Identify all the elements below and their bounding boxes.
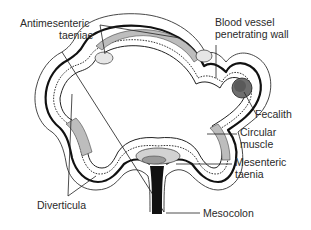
label-diverticula: Diverticula: [37, 199, 86, 211]
circular-muscle-right: [210, 124, 230, 160]
label-mesocolon: Mesocolon: [203, 207, 254, 219]
label-blood-vessel-line1: Blood vessel: [215, 16, 275, 28]
label-circular-muscle-line2: muscle: [240, 138, 273, 150]
mesenteric-vessel: [142, 156, 166, 164]
antimesenteric-taenia-right: [196, 50, 212, 62]
colon-diverticula-diagram: Antimesenteric taeniae Blood vessel pene…: [0, 0, 311, 230]
label-antimesenteric-line2: taeniae: [59, 29, 94, 41]
label-fecalith: Fecalith: [255, 108, 292, 120]
label-antimesenteric-line1: Antimesenteric: [20, 17, 89, 29]
label-circular-muscle-line1: Circular: [240, 126, 277, 138]
antimesenteric-taenia-left: [95, 52, 113, 64]
label-mesenteric-taenia-line1: Mesenteric: [235, 156, 286, 168]
fecalith-texture: [234, 80, 246, 92]
label-mesenteric-taenia-line2: taenia: [235, 168, 264, 180]
mesocolon: [150, 166, 164, 214]
label-blood-vessel-line2: penetrating wall: [215, 28, 289, 40]
